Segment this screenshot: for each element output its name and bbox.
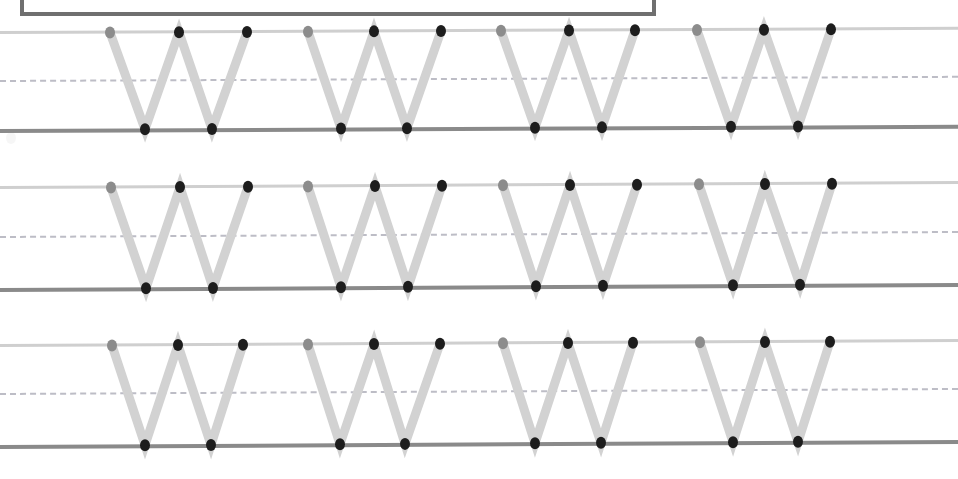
waypoint-dot xyxy=(760,336,770,348)
waypoint-dot xyxy=(596,437,606,449)
traced-letter-w xyxy=(498,337,638,450)
letter-stroke-path xyxy=(308,344,440,445)
waypoint-dot xyxy=(793,436,803,448)
letter-stroke-path xyxy=(503,343,633,444)
start-dot xyxy=(695,336,705,348)
tracing-worksheet-page xyxy=(0,0,958,479)
start-dot xyxy=(303,338,313,350)
waypoint-dot xyxy=(435,338,445,350)
waypoint-dot xyxy=(628,337,638,349)
letter-stroke-path xyxy=(112,345,243,446)
waypoint-dot xyxy=(206,439,216,451)
waypoint-dot xyxy=(238,339,248,351)
traced-letter-w xyxy=(695,336,835,449)
start-dot xyxy=(498,337,508,349)
traced-letter-w xyxy=(303,338,445,451)
start-dot xyxy=(107,339,117,351)
waypoint-dot xyxy=(140,439,150,451)
letter-stroke-path xyxy=(700,342,830,443)
waypoint-dot xyxy=(173,339,183,351)
waypoint-dot xyxy=(400,438,410,450)
waypoint-dot xyxy=(728,436,738,448)
waypoint-dot xyxy=(825,336,835,348)
waypoint-dot xyxy=(530,437,540,449)
traced-letter-w xyxy=(107,339,248,452)
letter-strokes-layer xyxy=(0,0,958,479)
waypoint-dot xyxy=(335,438,345,450)
waypoint-dot xyxy=(563,337,573,349)
waypoint-dot xyxy=(369,338,379,350)
